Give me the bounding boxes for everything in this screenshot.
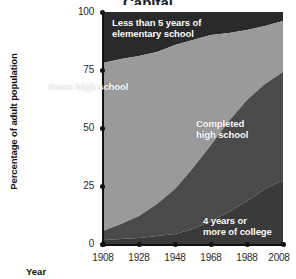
y-tick-dot-75 bbox=[100, 68, 105, 73]
x-tick-label-1928: 1928 bbox=[119, 252, 159, 263]
plot-area bbox=[0, 0, 296, 279]
band-label-line-2: more of college bbox=[203, 226, 272, 237]
stacked-area-chart: Capital Percentage of adult population Y… bbox=[0, 0, 296, 279]
band-label-line-2: elementary school bbox=[112, 28, 201, 39]
x-tick-label-1908: 1908 bbox=[83, 252, 123, 263]
y-tick-label-0: 0 bbox=[64, 238, 94, 249]
y-tick-dot-50 bbox=[100, 126, 105, 131]
y-tick-label-25: 25 bbox=[64, 180, 94, 191]
y-tick-dot-25 bbox=[100, 184, 105, 189]
x-tick-dot-1988 bbox=[245, 242, 250, 247]
band-label-line-1: Less than 5 years of bbox=[112, 17, 201, 28]
x-tick-dot-1968 bbox=[209, 242, 214, 247]
x-tick-label-1968: 1968 bbox=[191, 252, 231, 263]
band-label-four-years-college: 4 years or more of college bbox=[203, 215, 272, 237]
y-tick-label-100: 100 bbox=[64, 6, 94, 17]
x-tick-dot-1948 bbox=[173, 242, 178, 247]
x-tick-dot-2008 bbox=[281, 242, 286, 247]
y-tick-label-75: 75 bbox=[64, 64, 94, 75]
band-label-line-1: Some high school bbox=[48, 81, 128, 92]
x-tick-dot-1908 bbox=[101, 242, 106, 247]
band-label-line-2: high school bbox=[196, 129, 248, 140]
band-label-some-high-school: Some high school bbox=[48, 81, 128, 92]
x-axis-line bbox=[102, 244, 284, 246]
x-tick-label-2008: 2008 bbox=[259, 252, 296, 263]
y-tick-dot-100 bbox=[100, 10, 105, 15]
band-label-less-than-5-years: Less than 5 years of elementary school bbox=[112, 17, 201, 39]
x-tick-label-1948: 1948 bbox=[155, 252, 195, 263]
x-tick-dot-1928 bbox=[137, 242, 142, 247]
y-tick-label-50: 50 bbox=[64, 122, 94, 133]
band-label-line-1: 4 years or bbox=[203, 215, 272, 226]
band-label-completed-high-school: Completed high school bbox=[196, 118, 248, 140]
band-label-line-1: Completed bbox=[196, 118, 248, 129]
